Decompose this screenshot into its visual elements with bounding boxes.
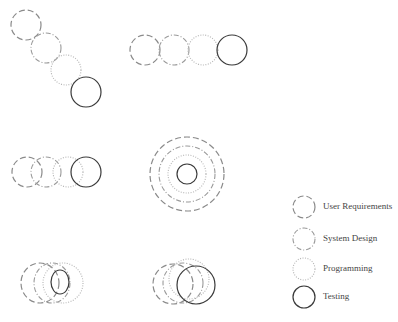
programming-circle	[53, 157, 83, 187]
programming-circle	[43, 263, 83, 303]
system-design-circle	[159, 146, 215, 202]
concentric	[150, 137, 224, 211]
testing-circle	[217, 35, 247, 65]
interleaved-ellipses	[21, 263, 83, 303]
horizontal-sequence	[130, 35, 247, 65]
user-requirements-circle	[11, 10, 41, 40]
legend-label-testing: Testing	[323, 291, 349, 301]
system-design-ellipse	[34, 263, 70, 303]
user-requirements-circle	[153, 264, 193, 304]
legend-symbols	[293, 196, 315, 308]
system-design-circle	[31, 157, 61, 187]
offset-overlap	[153, 259, 215, 304]
user-requirements-circle	[12, 157, 42, 187]
legend-user-requirements-icon	[293, 196, 315, 218]
overlapping-row	[12, 157, 101, 187]
system-design-circle	[31, 33, 61, 63]
programming-circle	[188, 35, 218, 65]
testing-circle	[71, 77, 101, 107]
user-requirements-circle	[150, 137, 224, 211]
user-requirements-circle	[130, 35, 160, 65]
legend-testing-icon	[293, 286, 315, 308]
user-requirements-ellipse	[21, 263, 59, 303]
testing-circle	[71, 157, 101, 187]
legend-programming-icon	[293, 258, 315, 280]
system-design-circle	[159, 35, 189, 65]
legend-label-system-design: System Design	[323, 233, 377, 243]
legend-label-user-requirements: User Requirements	[323, 201, 392, 211]
diagram-canvas	[0, 0, 398, 322]
diagonal-sequence	[11, 10, 101, 107]
testing-ellipse	[51, 270, 69, 294]
testing-circle	[177, 164, 197, 184]
legend-system-design-icon	[293, 228, 315, 250]
programming-circle	[168, 155, 206, 193]
legend-label-programming: Programming	[323, 263, 373, 273]
